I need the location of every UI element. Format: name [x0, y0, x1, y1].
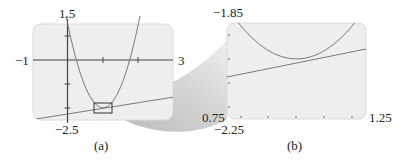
panel-b-ymin-label: −2.25 — [214, 123, 244, 136]
panel-a-ymin-label: −2.5 — [55, 123, 79, 136]
panel-a-xmax-label: 3 — [178, 54, 185, 67]
panel-b-xmax-label: 1.25 — [369, 111, 392, 124]
panel-a-xmin-label: −1 — [15, 54, 29, 67]
panel-b — [227, 20, 366, 119]
panel-a-ymax-label: 1.5 — [59, 7, 75, 20]
panel-a-caption: (a) — [94, 139, 108, 152]
figure-canvas — [0, 0, 402, 162]
panel-b-ymax-label: −1.85 — [213, 6, 243, 19]
panel-b-caption: (b) — [287, 139, 302, 152]
panel-a — [33, 16, 173, 123]
